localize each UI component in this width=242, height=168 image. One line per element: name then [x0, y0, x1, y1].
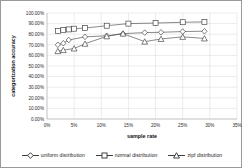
plot-area-wrapper: 0.00%10.00%20.00%30.00%40.00%50.00%60.00… — [1, 1, 242, 141]
data-point-marker — [55, 29, 60, 34]
y-tick-label: 90.00% — [28, 21, 44, 26]
legend-label-uniform-distribution: uniform distribution — [41, 152, 85, 158]
data-point-marker — [66, 37, 71, 43]
legend-item-uniform-distribution[interactable]: uniform distribution — [22, 152, 85, 159]
data-point-marker — [66, 27, 71, 32]
data-point-marker — [83, 26, 88, 31]
y-tick-label: 30.00% — [28, 85, 44, 90]
legend-swatch-square-icon — [96, 152, 113, 159]
data-point-marker — [142, 30, 147, 36]
data-point-marker — [126, 21, 131, 26]
legend-label-normal-distribution: normal distribution — [115, 152, 158, 158]
legend-label-zipf-distribution: zipf distribution — [187, 152, 222, 158]
data-point-marker — [202, 28, 207, 34]
data-point-marker — [61, 28, 66, 33]
y-tick-label: 100.00% — [26, 11, 44, 16]
legend-item-zipf-distribution[interactable]: zipf distribution — [168, 152, 222, 159]
y-tick-label: 20.00% — [28, 96, 44, 101]
data-point-marker — [82, 41, 88, 46]
y-tick-label: 60.00% — [28, 53, 44, 58]
data-point-marker — [82, 34, 87, 40]
data-point-marker — [61, 40, 66, 46]
x-tick-label: 5% — [71, 123, 78, 128]
y-axis-title: categorization accuracy — [10, 35, 16, 96]
data-point-marker — [153, 21, 158, 26]
y-tick-label: 80.00% — [28, 32, 44, 37]
y-tick-label: 50.00% — [28, 64, 44, 69]
line-chart: 0.00%10.00%20.00%30.00%40.00%50.00%60.00… — [1, 1, 242, 141]
x-tick-label: 15% — [124, 123, 133, 128]
x-tick-label: 25% — [178, 123, 187, 128]
legend-swatch-triangle-icon — [168, 152, 185, 159]
y-tick-label: 40.00% — [28, 74, 44, 79]
x-tick-label: 0% — [44, 123, 51, 128]
y-tick-label: 10.00% — [28, 106, 44, 111]
data-point-marker — [202, 19, 207, 24]
y-tick-label: 0.00% — [31, 117, 44, 122]
legend-item-normal-distribution[interactable]: normal distribution — [96, 152, 158, 159]
x-tick-label: 35% — [232, 123, 241, 128]
x-tick-label: 20% — [151, 123, 160, 128]
chart-figure: 0.00%10.00%20.00%30.00%40.00%50.00%60.00… — [0, 0, 242, 168]
y-tick-label: 70.00% — [28, 43, 44, 48]
data-point-marker — [72, 26, 77, 31]
data-point-marker — [180, 20, 185, 25]
x-axis-title: sample rate — [127, 133, 157, 139]
x-tick-label: 30% — [205, 123, 214, 128]
chart-legend: uniform distribution normal distribution… — [1, 142, 242, 168]
data-point-marker — [55, 42, 60, 48]
data-point-marker — [71, 46, 77, 51]
x-tick-label: 10% — [97, 123, 106, 128]
data-point-marker — [104, 23, 109, 28]
legend-swatch-diamond-icon — [22, 152, 39, 159]
